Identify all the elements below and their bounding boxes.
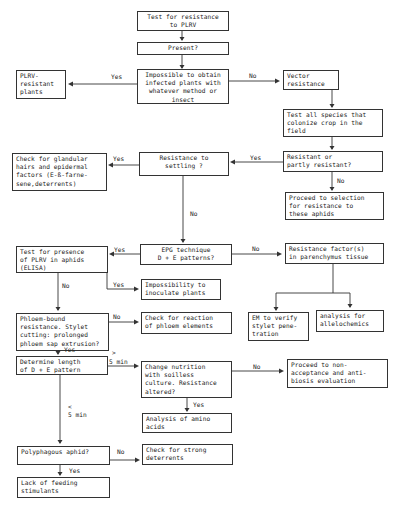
node-epg: EPG technique D + E patterns? — [140, 244, 232, 265]
edge-label-no: No — [337, 177, 344, 184]
edge-label-no: No — [62, 282, 69, 289]
node-feeding-stimulants: Lack of feeding stimulants — [17, 477, 110, 498]
node-test-species: Test all species that colonize crop in t… — [283, 109, 383, 137]
edge-label-yes: Yes — [113, 281, 124, 288]
edge-label-gt-symbol: > — [112, 349, 116, 356]
edge-label-lt-5min: 5 min — [68, 411, 87, 418]
node-impossible: Impossible to obtain infected plants wit… — [137, 69, 229, 104]
node-amino: Analysis of amino acids — [142, 413, 232, 433]
node-proceed-selection: Proceed to selection for resistance to t… — [285, 192, 384, 220]
node-non-acceptance: Proceed to non- acceptance and anti- bio… — [287, 359, 388, 388]
edge-label-yes: Yes — [250, 154, 261, 161]
edge-label-lt-symbol: < — [68, 403, 72, 410]
node-elisa: Test for presence of PLRV in aphids (ELI… — [16, 246, 108, 273]
edge-label-yes: Yes — [113, 155, 124, 162]
node-allelochemics: analysis for allelochemics — [316, 310, 384, 332]
node-parenchymus: Resistance factor(s) in parenchymus tiss… — [285, 243, 384, 264]
edge-label-yes: Yes — [193, 401, 204, 408]
node-inoculate: Impossibility to inoculate plants — [141, 279, 221, 300]
edge-label-yes: Yes — [111, 73, 122, 80]
edge-label-no: No — [249, 72, 256, 79]
node-determine-length: Determine length of D + E pattern — [16, 356, 108, 375]
edge-label-yes: Yes — [64, 346, 75, 353]
node-vector-resistance: Vector resistance — [283, 70, 339, 90]
edge-label-no: No — [117, 448, 124, 455]
edge-label-no: No — [113, 313, 120, 320]
edge-label-gt-5min: 5 min — [109, 358, 128, 365]
node-start: Test for resistance to PLRV — [137, 11, 229, 31]
node-phloem-bound: Phloem-bound resistance. Stylet cutting:… — [16, 313, 109, 351]
node-plrv-resistant: PLRV- resistant plants — [16, 70, 66, 99]
node-polyphagous: Polyphagous aphid? — [17, 446, 110, 465]
edge-label-no: No — [253, 363, 260, 370]
node-em-verify: EM to verify stylet pene- tration — [248, 312, 309, 341]
node-nutrition: Change nutrition with soilless culture. … — [141, 361, 232, 398]
edge-label-no: No — [252, 245, 259, 252]
edge-label-no: No — [190, 210, 197, 217]
node-settling: Resistance to settling ? — [139, 152, 229, 176]
edge-label-yes: Yes — [114, 246, 125, 253]
node-deterrents: Check for strong deterrents — [142, 444, 233, 465]
node-present: Present? — [137, 42, 229, 55]
node-resistant-question: Resistant or partly resistant? — [283, 151, 383, 172]
edge-label-yes: Yes — [69, 467, 80, 474]
node-glandular: Check for glandular hairs and epidermal … — [12, 153, 107, 191]
flowchart-canvas: Test for resistance to PLRV Present? Imp… — [0, 0, 396, 508]
node-phloem-reaction: Check for reaction of phloem elements — [141, 312, 232, 334]
